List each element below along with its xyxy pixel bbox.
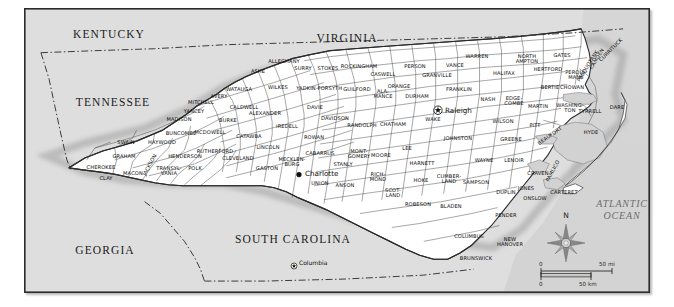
scale-km-zero: 0 bbox=[539, 281, 543, 287]
scale-bar: 0 50 mi 0 50 km bbox=[539, 261, 631, 289]
star-circle-marker-small bbox=[290, 256, 298, 274]
scale-km-value: 50 km bbox=[579, 281, 597, 287]
compass-rose: N bbox=[541, 211, 591, 263]
star-circle-marker bbox=[433, 101, 443, 119]
compass-north-label: N bbox=[541, 211, 591, 220]
scale-miles-value: 50 mi bbox=[599, 261, 615, 267]
dot-marker bbox=[295, 164, 302, 182]
scale-miles-zero: 0 bbox=[539, 261, 543, 267]
map-frame: KENTUCKYVIRGINIATENNESSEEGEORGIASOUTH CA… bbox=[24, 8, 650, 293]
